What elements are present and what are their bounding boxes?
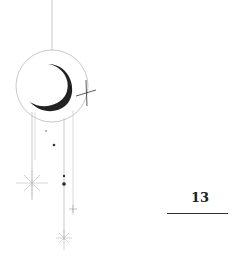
star-dot [62, 182, 66, 186]
starburst-icon [56, 230, 72, 250]
footer-rule [167, 213, 228, 214]
star-dot [63, 175, 65, 177]
sparkle-star-icon [76, 80, 96, 106]
small-star-icon [69, 205, 77, 213]
star-dot [53, 144, 56, 147]
page-number: 13 [180, 190, 220, 205]
crescent-moon-illustration [0, 0, 240, 259]
circle-frame [16, 50, 88, 122]
starburst-icon [16, 170, 48, 197]
crescent-moon-icon [30, 64, 72, 111]
document-page: 13 [0, 0, 240, 259]
